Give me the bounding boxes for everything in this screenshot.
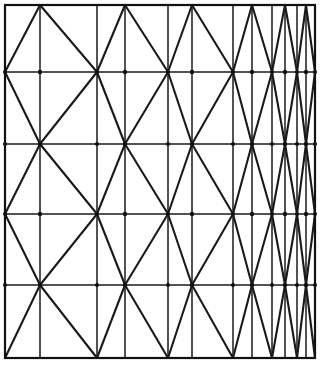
vertex-r1-c0: [3, 70, 7, 74]
vertex-r3-c7: [250, 212, 254, 216]
vertex-r3-c3: [123, 212, 127, 216]
vertex-r2-c3: [123, 142, 127, 146]
vertex-r4-c6: [231, 283, 235, 287]
vertex-r4-c8: [270, 283, 274, 287]
vertex-r3-c12: [313, 212, 317, 216]
vertex-r4-c4: [166, 283, 170, 287]
vertex-r4-c2: [95, 283, 99, 287]
lattice-diagram: [0, 0, 321, 366]
vertex-r1-c2: [95, 70, 99, 74]
vertex-r1-c8: [270, 70, 274, 74]
vertex-r3-c4: [166, 212, 170, 216]
vertex-r2-c10: [295, 142, 299, 146]
vertex-r1-c1: [38, 70, 42, 74]
vertex-r3-c11: [304, 212, 308, 216]
vertex-r1-c3: [123, 70, 127, 74]
vertex-r2-c0: [3, 142, 7, 146]
vertex-r3-c5: [190, 212, 194, 216]
vertex-r3-c6: [231, 212, 235, 216]
vertex-r1-c5: [190, 70, 194, 74]
vertex-r3-c1: [38, 212, 42, 216]
vertex-r1-c10: [295, 70, 299, 74]
vertex-r4-c1: [38, 283, 42, 287]
vertex-r3-c10: [295, 212, 299, 216]
vertex-r2-c6: [231, 142, 235, 146]
vertex-r4-c11: [304, 283, 308, 287]
vertex-r4-c0: [3, 283, 7, 287]
vertex-r2-c8: [270, 142, 274, 146]
vertex-r4-c9: [283, 283, 287, 287]
vertex-r1-c7: [250, 70, 254, 74]
vertex-r4-c10: [295, 283, 299, 287]
vertex-r3-c9: [283, 212, 287, 216]
vertex-r1-c9: [283, 70, 287, 74]
diagram-background: [0, 0, 321, 366]
vertex-r1-c6: [231, 70, 235, 74]
vertex-r3-c0: [3, 212, 7, 216]
vertex-r4-c7: [250, 283, 254, 287]
vertex-r2-c1: [38, 142, 42, 146]
vertex-r2-c7: [250, 142, 254, 146]
vertex-r4-c5: [190, 283, 194, 287]
vertex-r1-c12: [313, 70, 317, 74]
vertex-r2-c2: [95, 142, 99, 146]
vertex-r1-c11: [304, 70, 308, 74]
vertex-r2-c4: [166, 142, 170, 146]
vertex-r3-c8: [270, 212, 274, 216]
vertex-r2-c11: [304, 142, 308, 146]
diagram-canvas: [0, 0, 321, 366]
vertex-r4-c12: [313, 283, 317, 287]
vertex-r2-c5: [190, 142, 194, 146]
vertex-r4-c3: [123, 283, 127, 287]
vertex-r2-c9: [283, 142, 287, 146]
vertex-r1-c4: [166, 70, 170, 74]
vertex-r3-c2: [95, 212, 99, 216]
vertex-r2-c12: [313, 142, 317, 146]
